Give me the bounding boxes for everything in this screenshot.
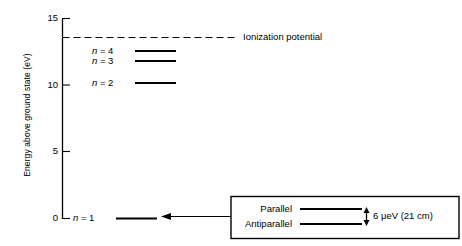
level-label-n3: n = 3 xyxy=(92,55,113,66)
inset-label-parallel: Parallel xyxy=(183,203,292,214)
level-label-n1: n = 1 xyxy=(73,212,94,223)
y-tick-label-15: 15 xyxy=(36,12,58,23)
level-label-n3-value: = 3 xyxy=(97,55,113,66)
level-label-n2: n = 2 xyxy=(92,77,113,88)
y-tick-label-0: 0 xyxy=(36,212,58,223)
inset-label-antiparallel: Antiparallel xyxy=(183,218,292,229)
energy-level-diagram: Energy above ground state (eV) 15 10 5 0… xyxy=(0,0,462,246)
ionization-potential-label: Ionization potential xyxy=(243,31,322,42)
y-tick-label-10: 10 xyxy=(36,79,58,90)
y-tick-label-5: 5 xyxy=(36,145,58,156)
callout-arrow-head xyxy=(161,213,171,220)
level-label-n2-value: = 2 xyxy=(97,77,113,88)
level-label-n1-value: = 1 xyxy=(78,212,94,223)
y-axis-title-text: Energy above ground state (eV) xyxy=(22,15,32,215)
hyperfine-splitting-label: 6 μeV (21 cm) xyxy=(373,210,433,221)
